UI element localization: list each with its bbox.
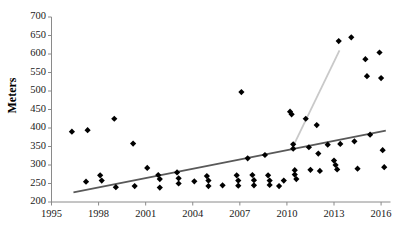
x-axis-tick-label: 2004 [173,208,213,219]
data-point-marker [276,183,282,189]
data-point-marker [348,34,354,40]
data-point-marker [251,182,257,188]
y-axis-tick-label: 200 [10,195,46,206]
data-point-marker [378,75,384,81]
data-point-marker [176,180,182,186]
data-point-marker [315,150,321,156]
data-point-marker [364,73,370,79]
y-axis-tick-label: 450 [10,103,46,114]
data-point-marker [144,165,150,171]
x-axis-tick-label: 2001 [126,208,166,219]
y-axis-tick-label: 700 [10,10,46,21]
data-point-marker [191,178,197,184]
data-point-marker [157,184,163,190]
data-point-marker [351,138,357,144]
data-point-marker [265,172,271,178]
y-axis-tick-label: 400 [10,121,46,132]
y-axis-tick-label: 300 [10,158,46,169]
data-point-marker [245,155,251,161]
data-point-marker [83,179,89,185]
data-point-marker [97,172,103,178]
data-point-marker [234,172,240,178]
y-axis-tick-label: 600 [10,47,46,58]
data-point-marker [249,172,255,178]
data-point-marker [205,183,211,189]
x-axis-tick-label: 2010 [267,208,307,219]
x-axis-tick-label: 1998 [79,208,119,219]
x-axis-tick-label: 1995 [32,208,72,219]
data-point-marker [262,152,268,158]
data-point-marker [381,164,387,170]
data-point-marker [354,166,360,172]
y-axis-tick-label: 350 [10,140,46,151]
data-point-marker [132,183,138,189]
data-point-marker [238,89,244,95]
recent-steep-trend-line [293,50,339,146]
data-point-marker [174,169,180,175]
x-axis-tick-label: 2007 [220,208,260,219]
data-point-marker [69,129,75,135]
data-point-marker [362,56,368,62]
data-point-marker [281,177,287,183]
data-point-marker [376,49,382,55]
data-point-marker [290,146,296,152]
data-point-marker [219,182,225,188]
data-point-marker [336,38,342,44]
data-point-marker [111,116,117,122]
overall-trend-line [73,131,385,193]
x-axis-tick-label: 2013 [314,208,354,219]
y-axis-tick-label: 650 [10,29,46,40]
y-axis-tick-label: 250 [10,177,46,188]
data-point-marker [317,168,323,174]
data-point-marker [84,127,90,133]
y-axis-tick-label: 500 [10,84,46,95]
data-point-marker [380,147,386,153]
y-axis-tick-label: 550 [10,66,46,77]
data-point-marker [307,167,313,173]
scatter-chart: Meters 200250300350400450500550600650700… [0,0,409,233]
data-point-marker [99,177,105,183]
data-point-marker [337,141,343,147]
x-axis-tick-label: 2016 [361,208,401,219]
data-point-marker [267,182,273,188]
data-point-marker [314,122,320,128]
plot-area [0,0,409,233]
data-point-marker [130,140,136,146]
data-point-marker [235,183,241,189]
